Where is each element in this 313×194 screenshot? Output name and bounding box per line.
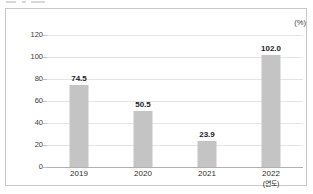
page-cutoff-artifacts: [0, 0, 313, 7]
y-axis-tick-label: 0: [9, 163, 43, 171]
x-axis-tick-label: 2019: [47, 169, 111, 179]
y-axis-tick-label: 40: [9, 119, 43, 127]
bar-value-label: 50.5: [135, 100, 151, 109]
cutoff-mark: [31, 1, 45, 3]
bar-chart-figure: (%) 120100806040200 74.550.523.9102.0 20…: [5, 8, 307, 186]
x-axis-tick-label: 2022: [239, 169, 303, 179]
x-axis-tick-label: 2021: [175, 169, 239, 179]
bar: [70, 85, 89, 167]
x-axis-category: 2020: [111, 169, 175, 179]
bar-value-label: 102.0: [261, 44, 281, 53]
y-axis-tick-labels: 120100806040200: [6, 35, 43, 167]
y-axis-tick-label: 120: [9, 31, 43, 39]
bar-value-label: 23.9: [199, 130, 215, 139]
x-axis-category: 2019: [47, 169, 111, 179]
bar: [134, 111, 153, 167]
x-axis-category: 2022(연도): [239, 169, 303, 188]
bar: [198, 141, 217, 167]
bar-group: 74.5: [47, 35, 111, 167]
x-axis-tick-labels: 2019202020212022(연도): [47, 169, 303, 194]
x-axis-tick-label: 2020: [111, 169, 175, 179]
bar-series: 74.550.523.9102.0: [47, 35, 303, 167]
bar: [262, 55, 281, 167]
y-axis-tick-mark: [43, 167, 47, 168]
bar-value-label: 74.5: [71, 74, 87, 83]
bar-group: 102.0: [239, 35, 303, 167]
bar-group: 50.5: [111, 35, 175, 167]
x-axis-category: 2021: [175, 169, 239, 179]
y-axis-tick-label: 100: [9, 53, 43, 61]
cutoff-mark: [22, 1, 26, 3]
axis-baseline: [47, 167, 303, 168]
y-axis-tick-label: 80: [9, 75, 43, 83]
bar-group: 23.9: [175, 35, 239, 167]
y-axis-tick-label: 20: [9, 141, 43, 149]
x-axis-unit-label: (연도): [239, 179, 303, 188]
cutoff-mark: [6, 1, 16, 3]
y-axis-tick-label: 60: [9, 97, 43, 105]
y-axis-unit-label: (%): [272, 19, 306, 27]
